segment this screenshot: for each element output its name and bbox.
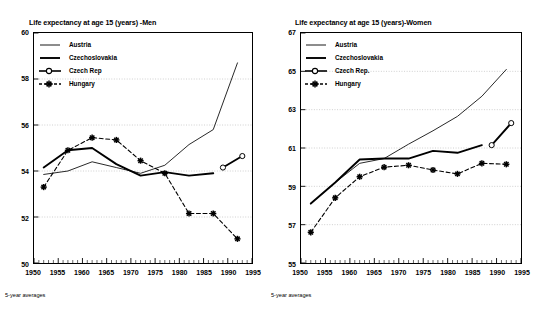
- y-tick-label: 56: [6, 121, 29, 128]
- legend-label-czech-rep: Czech Rep.: [335, 67, 369, 74]
- series-line: [223, 156, 242, 168]
- legend-label-czechoslovakia: Czechoslovakia: [335, 54, 383, 61]
- y-tick-label: 59: [273, 183, 296, 190]
- x-tick-label: 1995: [245, 269, 261, 276]
- y-tick-label: 54: [6, 168, 29, 175]
- data-point-marker: [357, 174, 363, 180]
- legend-item: Czechoslovakia: [304, 51, 383, 64]
- legend-item: Czech Rep.: [304, 64, 383, 77]
- x-tick-label: 1980: [440, 269, 456, 276]
- data-point-marker: [240, 153, 245, 158]
- legend-item: Austria: [304, 38, 383, 51]
- x-tick-label: 1955: [317, 269, 333, 276]
- legend-men: Austria Czechoslovakia Czech Rep: [38, 38, 117, 90]
- data-point-marker: [186, 210, 192, 216]
- x-tick-label: 1990: [221, 269, 237, 276]
- x-tick-label: 1995: [514, 269, 530, 276]
- legend-item: Austria: [38, 38, 117, 51]
- chart-title-women: Life expectancy at age 15 (years)-Women: [295, 18, 432, 27]
- data-point-marker: [332, 195, 338, 201]
- x-tick-label: 1950: [25, 269, 41, 276]
- x-tick-label: 1985: [465, 269, 481, 276]
- y-tick-label: 57: [273, 222, 296, 229]
- legend-label-czech-rep: Czech Rep: [69, 67, 102, 74]
- data-point-marker: [381, 164, 387, 170]
- data-point-marker: [430, 167, 436, 173]
- legend-label-hungary: Hungary: [69, 80, 95, 87]
- x-tick-label: 1970: [123, 269, 139, 276]
- data-point-marker: [489, 143, 494, 148]
- data-point-marker: [405, 162, 411, 168]
- data-point-marker: [89, 135, 95, 141]
- x-tick-label: 1970: [391, 269, 407, 276]
- legend-item: Hungary: [304, 77, 383, 90]
- y-tick-label: 67: [273, 29, 296, 36]
- data-point-marker: [479, 160, 485, 166]
- legend-key-star-marker-icon: [304, 78, 330, 90]
- y-tick-label: 65: [273, 67, 296, 74]
- chart-panel-men: Life expectancy at age 15 (years) -Men 5…: [0, 0, 267, 318]
- legend-item: Hungary: [38, 77, 117, 90]
- x-tick-label: 1955: [50, 269, 66, 276]
- x-tick-label: 1965: [366, 269, 382, 276]
- data-point-marker: [138, 158, 144, 164]
- x-tick-label: 1980: [172, 269, 188, 276]
- footnote-women: 5-year averages: [271, 292, 311, 298]
- data-point-marker: [308, 229, 314, 235]
- x-tick-label: 1965: [99, 269, 115, 276]
- y-tick-label: 55: [273, 261, 296, 268]
- data-point-marker: [503, 161, 509, 167]
- legend-key-thick-line-icon: [38, 52, 64, 64]
- x-tick-label: 1960: [74, 269, 90, 276]
- y-tick-label: 63: [273, 106, 296, 113]
- data-point-marker: [65, 147, 71, 153]
- data-point-marker: [113, 137, 119, 143]
- x-tick-label: 1975: [416, 269, 432, 276]
- series-line: [44, 138, 238, 239]
- y-tick-label: 61: [273, 145, 296, 152]
- legend-key-thick-line-icon: [304, 52, 330, 64]
- legend-key-circle-marker-icon: [38, 65, 64, 77]
- legend-label-austria: Austria: [335, 41, 357, 48]
- chart-panel-women: Life expectancy at age 15 (years)-Women …: [268, 0, 535, 318]
- data-point-marker: [41, 184, 47, 190]
- legend-label-czechoslovakia: Czechoslovakia: [69, 54, 117, 61]
- x-tick-label: 1950: [292, 269, 308, 276]
- data-point-marker: [509, 121, 514, 126]
- legend-key-circle-marker-icon: [304, 65, 330, 77]
- data-point-marker: [234, 236, 240, 242]
- x-tick-label: 1960: [342, 269, 358, 276]
- legend-key-thin-line-icon: [38, 39, 64, 51]
- series-line: [311, 163, 507, 232]
- y-tick-label: 50: [6, 261, 29, 268]
- y-tick-label: 52: [6, 214, 29, 221]
- life-expectancy-figure: Life expectancy at age 15 (years) -Men 5…: [0, 0, 535, 318]
- x-tick-label: 1975: [147, 269, 163, 276]
- x-tick-label: 1990: [490, 269, 506, 276]
- legend-label-austria: Austria: [69, 41, 91, 48]
- legend-item: Czech Rep: [38, 64, 117, 77]
- legend-label-hungary: Hungary: [335, 80, 361, 87]
- data-point-marker: [454, 171, 460, 177]
- y-tick-label: 58: [6, 75, 29, 82]
- chart-title-men: Life expectancy at age 15 (years) -Men: [29, 18, 156, 27]
- y-tick-label: 60: [6, 29, 29, 36]
- series-line: [492, 123, 512, 145]
- legend-women: Austria Czechoslovakia Czech Rep.: [304, 38, 383, 90]
- legend-item: Czechoslovakia: [38, 51, 117, 64]
- data-point-marker: [220, 165, 225, 170]
- data-point-marker: [210, 210, 216, 216]
- data-point-marker: [162, 170, 168, 176]
- x-tick-label: 1985: [196, 269, 212, 276]
- legend-key-thin-line-icon: [304, 39, 330, 51]
- footnote-men: 5-year averages: [5, 292, 45, 298]
- legend-key-star-marker-icon: [38, 78, 64, 90]
